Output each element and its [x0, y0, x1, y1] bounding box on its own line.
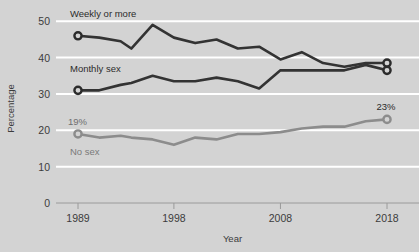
series-lines: [78, 25, 387, 145]
x-tick-label-1998: 1998: [162, 212, 186, 224]
y-tick-label-50: 50: [38, 15, 50, 27]
annotation-23pct: 23%: [376, 101, 396, 112]
series-label-monthly-sex: Monthly sex: [70, 63, 121, 74]
series-line-weekly-or-more: [78, 25, 387, 67]
x-tick-label-1989: 1989: [66, 212, 90, 224]
annotation-19pct: 19%: [68, 116, 88, 127]
chart-container: 01020304050 1989199820082018 Weekly or m…: [0, 0, 419, 252]
line-chart: 01020304050 1989199820082018 Weekly or m…: [0, 0, 419, 252]
series-label-weekly-or-more: Weekly or more: [70, 8, 136, 19]
y-axis-tick-labels: 01020304050: [38, 15, 50, 209]
y-tick-label-0: 0: [44, 197, 50, 209]
x-axis-tick-labels: 1989199820082018: [66, 212, 399, 224]
value-annotations: 19%23%: [68, 101, 396, 127]
axes: [56, 203, 419, 209]
y-tick-label-40: 40: [38, 52, 50, 64]
y-axis-title: Percentage: [5, 84, 16, 133]
series-marker-weekly-or-more: [74, 32, 81, 39]
y-tick-label-30: 30: [38, 88, 50, 100]
x-axis-title: Year: [223, 233, 242, 244]
x-tick-label-2018: 2018: [375, 212, 399, 224]
series-label-no-sex: No sex: [70, 146, 100, 157]
series-line-monthly-sex: [78, 65, 387, 90]
y-tick-label-10: 10: [38, 161, 50, 173]
series-marker-no-sex: [383, 116, 390, 123]
gridlines: [56, 21, 419, 166]
series-marker-monthly-sex: [383, 67, 390, 74]
x-tick-label-2008: 2008: [269, 212, 293, 224]
series-marker-no-sex: [74, 130, 81, 137]
series-line-no-sex: [78, 119, 387, 144]
series-marker-monthly-sex: [74, 87, 81, 94]
y-tick-label-20: 20: [38, 124, 50, 136]
